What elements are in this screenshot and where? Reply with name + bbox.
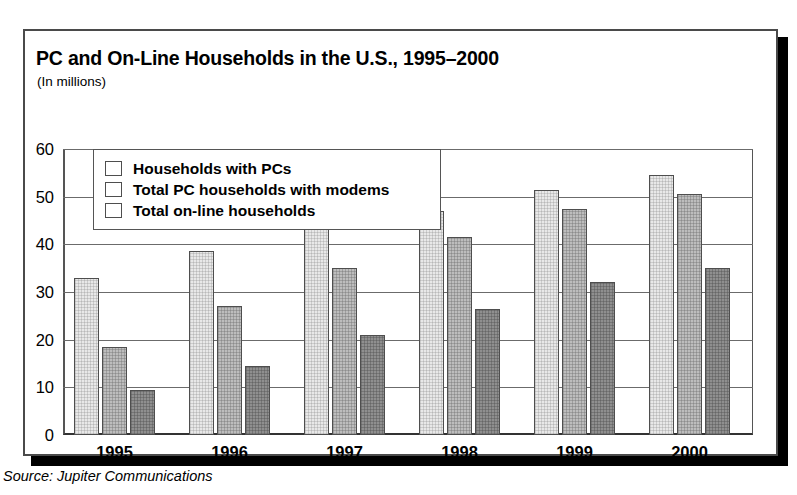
bar: [447, 237, 472, 435]
bar: [475, 309, 500, 435]
xaxis-tick-label: 1997: [326, 444, 363, 461]
bar: [130, 390, 155, 435]
legend-item-label: Total on-line households: [133, 203, 315, 219]
bar: [562, 209, 587, 435]
yaxis-tick-label: 50: [36, 188, 54, 205]
bar: [419, 211, 444, 435]
yaxis-tick-label: 60: [36, 141, 54, 158]
yaxis-tick-label: 10: [36, 379, 54, 396]
bar: [534, 190, 559, 435]
bar-group: [534, 149, 615, 435]
page-title: PC and On-Line Households in the U.S., 1…: [36, 47, 499, 70]
yaxis-tick-label: 30: [36, 284, 54, 301]
bar: [102, 347, 127, 435]
yaxis-tick-label: 0: [45, 427, 54, 444]
legend-swatch-icon: [105, 182, 122, 197]
legend-swatch-icon: [105, 161, 122, 176]
yaxis-tick-label: 20: [36, 331, 54, 348]
bar: [649, 175, 674, 435]
figure-root: PC and On-Line Households in the U.S., 1…: [0, 0, 797, 495]
source-note: Source: Jupiter Communications: [3, 468, 213, 484]
legend-item: Total on-line households: [105, 200, 430, 221]
bar: [332, 268, 357, 435]
xaxis-tick-label: 1995: [96, 444, 133, 461]
bar: [677, 194, 702, 435]
legend-swatch-icon: [105, 203, 122, 218]
xaxis-tick-label: 2000: [671, 444, 708, 461]
xaxis-tick-label: 1999: [556, 444, 593, 461]
bar: [360, 335, 385, 435]
bar: [217, 306, 242, 435]
bar: [590, 282, 615, 435]
chart-legend: Households with PCs Total PC households …: [93, 149, 441, 230]
legend-item: Households with PCs: [105, 158, 430, 179]
bar: [189, 251, 214, 435]
chart-card: PC and On-Line Households in the U.S., 1…: [23, 29, 778, 456]
bar: [304, 228, 329, 435]
bar: [245, 366, 270, 435]
bar: [705, 268, 730, 435]
xaxis-tick-label: 1996: [211, 444, 248, 461]
chart-subtitle: (In millions): [37, 74, 106, 89]
yaxis-tick-label: 40: [36, 236, 54, 253]
legend-item: Total PC households with modems: [105, 179, 430, 200]
bar-group: [649, 149, 730, 435]
legend-item-label: Total PC households with modems: [133, 182, 389, 198]
bar: [74, 278, 99, 435]
xaxis-tick-label: 1998: [441, 444, 478, 461]
legend-item-label: Households with PCs: [133, 161, 291, 177]
